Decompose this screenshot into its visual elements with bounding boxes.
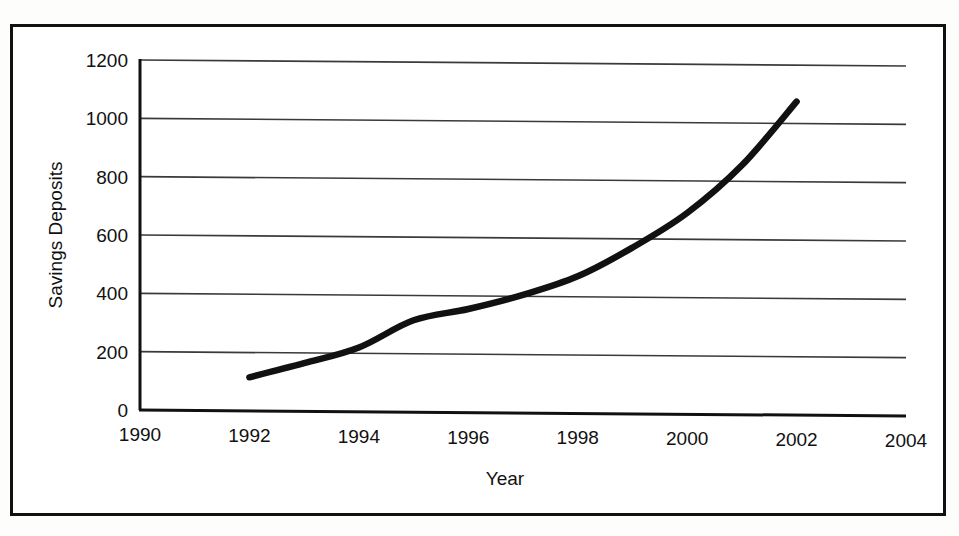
y-tick-label-1000: 1000: [86, 108, 128, 129]
x-tick-label-1998: 1998: [557, 427, 599, 448]
x-tick-label-1994: 1994: [338, 426, 381, 447]
chart-figure: 1200 1000 800 600 400 200 0 1990 1992 19…: [0, 0, 959, 536]
y-tick-label-400: 400: [96, 283, 128, 304]
y-tick-label-1200: 1200: [86, 50, 128, 71]
x-tick-label-1990: 1990: [119, 424, 161, 445]
x-axis-spine: [139, 410, 906, 416]
gridline-200: [139, 352, 906, 358]
gridline-800: [139, 177, 906, 183]
x-tick-label-1996: 1996: [447, 427, 489, 448]
gridline-600: [139, 235, 906, 241]
plot-area: [139, 59, 906, 416]
x-tick-label-2004: 2004: [885, 430, 928, 451]
x-tick-label-1992: 1992: [228, 425, 270, 446]
x-tick-label-2002: 2002: [775, 429, 817, 450]
y-axis-title: Savings Deposits: [45, 162, 66, 309]
x-axis-title: Year: [486, 468, 525, 489]
y-tick-label-800: 800: [96, 167, 128, 188]
gridline-1000: [139, 118, 906, 124]
x-tick-label-2000: 2000: [666, 428, 708, 449]
gridline-1200: [139, 60, 906, 66]
y-tick-label-200: 200: [96, 342, 128, 363]
y-tick-label-600: 600: [96, 225, 128, 246]
chart-svg: 1200 1000 800 600 400 200 0 1990 1992 19…: [0, 0, 959, 536]
y-tick-label-0: 0: [117, 400, 128, 421]
